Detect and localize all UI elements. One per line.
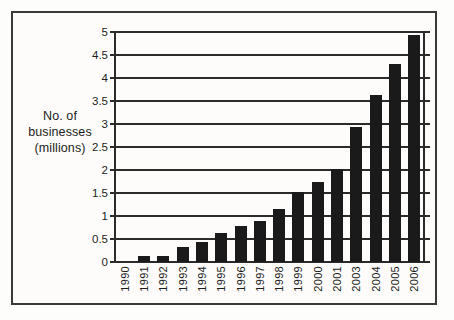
gridline	[115, 77, 424, 79]
x-axis-tick-label: 1999	[292, 266, 304, 292]
bar	[235, 226, 247, 262]
bar	[350, 127, 362, 262]
plot-area	[115, 32, 424, 262]
y-axis-tick	[110, 169, 115, 171]
bar	[389, 64, 401, 262]
x-axis-tick-label: 2006	[408, 266, 420, 292]
y-axis-tick	[110, 100, 115, 102]
x-axis-tick-label: 1994	[196, 266, 208, 292]
x-axis-tick-label: 1990	[119, 266, 131, 292]
bar	[370, 95, 382, 262]
y-axis-tick-label: 2.5	[74, 141, 108, 153]
bar	[215, 233, 227, 262]
right-axis-tick	[424, 238, 430, 240]
y-axis-tick-label: 2	[74, 164, 108, 176]
x-axis-tick-label: 1995	[215, 266, 227, 292]
bar	[177, 247, 189, 262]
x-axis-tick-label: 1991	[138, 266, 150, 292]
y-axis-tick-label: 1	[74, 210, 108, 222]
right-axis-tick	[424, 54, 430, 56]
gridline	[115, 54, 424, 56]
chart-figure: No. of businesses (millions) 00.511.522.…	[0, 0, 454, 320]
x-axis-tick-label: 2005	[389, 266, 401, 292]
right-axis-tick	[424, 192, 430, 194]
gridline	[115, 31, 424, 33]
y-axis-tick-label: 4.5	[74, 49, 108, 61]
bar	[408, 35, 420, 262]
y-axis-tick-label: 3.5	[74, 95, 108, 107]
y-axis-tick-label: 3	[74, 118, 108, 130]
x-axis-tick-label: 1998	[273, 266, 285, 292]
x-axis-tick-label: 1996	[235, 266, 247, 292]
bar	[273, 209, 285, 262]
y-axis-tick-label: 5	[74, 26, 108, 38]
y-axis-tick	[110, 192, 115, 194]
bar	[292, 192, 304, 262]
y-axis-tick	[110, 31, 115, 33]
bar	[157, 256, 169, 262]
y-axis-tick	[110, 123, 115, 125]
right-axis-tick	[424, 146, 430, 148]
bar	[196, 242, 208, 262]
bar	[138, 256, 150, 262]
right-axis-tick	[424, 123, 430, 125]
x-axis-tick-label: 1993	[177, 266, 189, 292]
y-axis-tick-label: 0.5	[74, 233, 108, 245]
x-axis-tick-label: 2001	[331, 266, 343, 292]
y-axis-tick-label: 1.5	[74, 187, 108, 199]
y-axis-tick	[110, 261, 115, 263]
bar	[254, 221, 266, 262]
y-axis-tick	[110, 54, 115, 56]
bar	[312, 182, 324, 262]
right-axis-tick	[424, 261, 430, 263]
x-axis-tick-label: 2003	[350, 266, 362, 292]
bar	[331, 169, 343, 262]
y-axis-tick-label: 4	[74, 72, 108, 84]
y-axis-tick-labels: 00.511.522.533.544.55	[72, 32, 108, 262]
y-axis-tick	[110, 146, 115, 148]
right-axis-tick	[424, 215, 430, 217]
y-axis-tick-label: 0	[74, 256, 108, 268]
right-axis-tick	[424, 100, 430, 102]
right-axis-tick	[424, 77, 430, 79]
x-axis-tick-label: 2000	[312, 266, 324, 292]
x-axis-tick-label: 1997	[254, 266, 266, 292]
right-axis-tick	[424, 31, 430, 33]
x-axis-tick-label: 2004	[370, 266, 382, 292]
y-axis-tick	[110, 238, 115, 240]
y-axis-tick	[110, 215, 115, 217]
x-axis-tick-labels: 1990199119921993199419951996199719981999…	[115, 266, 424, 306]
right-axis-tick	[424, 169, 430, 171]
x-axis-tick-label: 1992	[157, 266, 169, 292]
y-axis-tick	[110, 77, 115, 79]
